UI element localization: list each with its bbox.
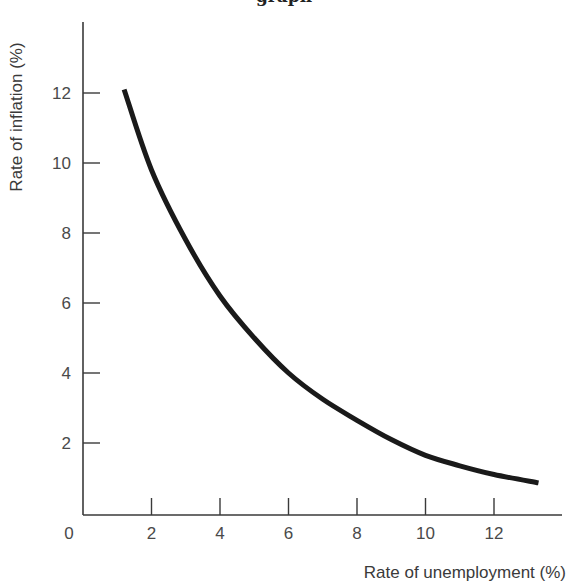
y-tick-label: 10 (52, 154, 71, 173)
x-tick-label: 10 (416, 524, 435, 543)
x-axis-title: Rate of unemployment (%) (364, 563, 566, 582)
x-tick-label: 6 (284, 524, 293, 543)
x-tick-label: 4 (215, 524, 224, 543)
y-tick-label: 6 (62, 294, 71, 313)
y-axis-title: Rate of inflation (%) (7, 42, 26, 191)
x-tick-label: 0 (64, 524, 73, 543)
y-tick-label: 4 (62, 364, 71, 383)
y-tick-label: 8 (62, 224, 71, 243)
axes (83, 22, 562, 515)
x-tick-label: 12 (485, 524, 504, 543)
y-tick-label: 12 (52, 84, 71, 103)
phillips-curve-line (124, 90, 538, 483)
phillips-curve-chart: 24681012 024681012 Rate of inflation (%)… (0, 0, 568, 584)
y-ticks: 24681012 (52, 84, 100, 453)
x-ticks: 024681012 (64, 498, 503, 543)
x-tick-label: 8 (352, 524, 361, 543)
y-tick-label: 2 (62, 434, 71, 453)
x-tick-label: 2 (147, 524, 156, 543)
